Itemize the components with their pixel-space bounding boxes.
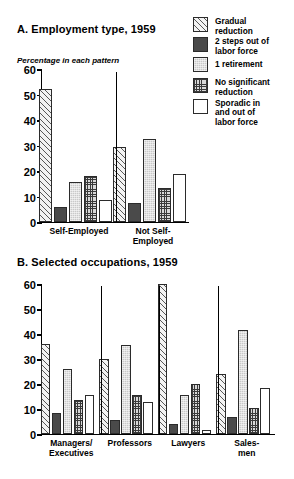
legend-label: 2 steps out of labor force	[215, 37, 269, 56]
bar-gradual-reduction	[39, 89, 52, 222]
bar-group: Lawyers	[159, 285, 218, 434]
panel-a: A. Employment type, 1959 Percentage in e…	[0, 0, 294, 252]
x-axis-group-label: Lawyers	[159, 438, 218, 448]
group-separator	[116, 72, 117, 222]
y-axis-tick-label: 50	[24, 90, 36, 101]
x-axis-group-label: Professors	[101, 438, 160, 448]
x-axis-group-label: Sales- men	[218, 438, 277, 458]
y-axis-tick-label: 30	[24, 141, 36, 152]
bar-no-significant-reduction	[158, 188, 171, 222]
bar-sporadic-in-and-out-of-labor-force	[99, 200, 112, 222]
bar-group: Sales- men	[218, 285, 277, 434]
bar-1-retirement	[121, 345, 131, 434]
chart-a-plot-area: 0102030405060Self-EmployedNot Self-Emplo…	[41, 70, 189, 223]
chart-b: 0102030405060Managers/ ExecutivesProfess…	[0, 252, 294, 479]
y-axis-tick	[37, 222, 42, 224]
y-axis-tick-label: 30	[24, 355, 36, 366]
bar-2-steps-out-of-labor-force	[110, 420, 120, 434]
y-axis-tick-label: 60	[24, 65, 36, 76]
bar-sporadic-in-and-out-of-labor-force	[85, 395, 95, 434]
bar-1-retirement	[143, 139, 156, 222]
bar-no-significant-reduction	[74, 400, 84, 434]
bar-group: Managers/ Executives	[42, 285, 101, 434]
y-axis-tick-label: 60	[24, 280, 36, 291]
y-axis-tick-label: 20	[24, 167, 36, 178]
bar-2-steps-out-of-labor-force	[128, 203, 141, 222]
legend-item: Gradual reduction	[193, 17, 294, 36]
bar-sporadic-in-and-out-of-labor-force	[202, 430, 212, 434]
y-axis-tick-label: 40	[24, 116, 36, 127]
bar-2-steps-out-of-labor-force	[54, 207, 67, 222]
legend-label: Sporadic in and out of labor force	[215, 99, 260, 128]
bar-2-steps-out-of-labor-force	[227, 417, 237, 435]
bar-gradual-reduction	[41, 344, 51, 434]
y-axis-tick-label: 20	[24, 380, 36, 391]
legend-item: Sporadic in and out of labor force	[193, 99, 294, 128]
y-axis-tick-label: 50	[24, 305, 36, 316]
legend-label: No significant reduction	[215, 78, 270, 97]
legend-label: 1 retirement	[215, 57, 263, 70]
bar-sporadic-in-and-out-of-labor-force	[143, 402, 153, 435]
chart-b-plot-area: 0102030405060Managers/ ExecutivesProfess…	[41, 285, 275, 435]
chart-a: 0102030405060Self-EmployedNot Self-Emplo…	[0, 0, 200, 252]
y-axis-tick-label: 10	[24, 405, 36, 416]
bar-1-retirement	[69, 182, 82, 222]
x-axis-group-label: Not Self-Employed	[116, 226, 190, 246]
bar-group: Not Self-Employed	[116, 70, 190, 222]
panel-b: B. Selected occupations, 1959 0102030405…	[0, 252, 294, 479]
group-separator	[101, 286, 102, 434]
bar-no-significant-reduction	[249, 408, 259, 434]
y-axis-tick-label: 10	[24, 192, 36, 203]
bar-no-significant-reduction	[191, 384, 201, 434]
legend-item: 2 steps out of labor force	[193, 37, 294, 56]
y-axis-tick-label: 40	[24, 330, 36, 341]
bar-1-retirement	[238, 330, 248, 434]
x-axis-group-label: Self-Employed	[42, 226, 116, 236]
bar-2-steps-out-of-labor-force	[169, 424, 179, 434]
y-axis-tick-label: 0	[30, 218, 36, 229]
y-axis-tick-label: 0	[30, 430, 36, 441]
x-axis-group-label: Managers/ Executives	[42, 438, 101, 458]
bar-gradual-reduction	[113, 147, 126, 222]
bar-1-retirement	[180, 395, 190, 434]
bar-1-retirement	[63, 369, 73, 434]
group-separator	[159, 286, 160, 434]
group-separator	[218, 286, 219, 434]
bar-sporadic-in-and-out-of-labor-force	[260, 388, 270, 434]
bar-no-significant-reduction	[132, 395, 142, 434]
bar-group: Self-Employed	[42, 70, 116, 222]
legend-label: Gradual reduction	[215, 17, 253, 36]
chart-legend: Gradual reduction 2 steps out of labor f…	[193, 17, 294, 127]
legend-item: No significant reduction	[193, 78, 294, 97]
bar-sporadic-in-and-out-of-labor-force	[173, 174, 186, 222]
bar-group: Professors	[101, 285, 160, 434]
bar-2-steps-out-of-labor-force	[52, 413, 62, 434]
bar-no-significant-reduction	[84, 176, 97, 222]
y-axis-tick	[37, 434, 42, 436]
legend-item: 1 retirement	[193, 57, 294, 72]
